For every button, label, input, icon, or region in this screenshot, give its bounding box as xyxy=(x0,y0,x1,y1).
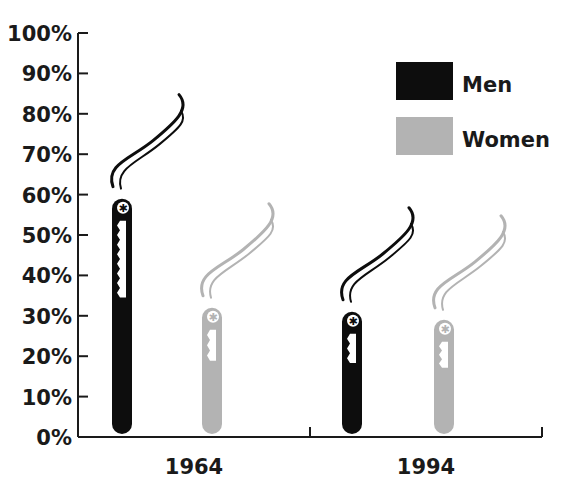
legend-swatch-women xyxy=(396,117,453,155)
cigarette-paper-icon xyxy=(207,330,216,361)
y-tick-label: 40% xyxy=(22,264,72,288)
legend-label-men: Men xyxy=(462,73,512,97)
y-tick-label: 50% xyxy=(22,224,72,248)
y-tick-label: 60% xyxy=(22,184,72,208)
x-category-label: 1964 xyxy=(165,455,223,479)
cigarette-smoking-chart: 0%10%20%30%40%50%60%70%80%90%100% 196419… xyxy=(0,0,561,493)
ember-icon: ✱ xyxy=(348,315,357,328)
cigarette-bar-women-1994: ✱ xyxy=(434,216,506,434)
smoke-icon xyxy=(112,95,184,189)
smoke-icon xyxy=(434,216,506,310)
y-tick-label: 20% xyxy=(22,345,72,369)
y-axis: 0%10%20%30%40%50%60%70%80%90%100% xyxy=(7,22,88,450)
y-tick-label: 80% xyxy=(22,103,72,127)
x-category-label: 1994 xyxy=(397,455,455,479)
x-axis: 19641994 xyxy=(78,427,542,479)
cigarette-paper-icon xyxy=(439,342,448,368)
ember-icon: ✱ xyxy=(440,323,449,336)
cigarette-bar-men-1964: ✱ xyxy=(112,95,184,434)
chart-container: 0%10%20%30%40%50%60%70%80%90%100% 196419… xyxy=(0,0,561,493)
cigarette-paper-icon xyxy=(347,334,356,363)
legend-label-women: Women xyxy=(462,128,550,152)
cigarette-bar-women-1964: ✱ xyxy=(202,204,274,434)
y-tick-label: 30% xyxy=(22,305,72,329)
smoke-icon xyxy=(342,208,414,302)
legend: Men Women xyxy=(396,62,550,155)
ember-icon: ✱ xyxy=(208,311,217,324)
y-tick-label: 100% xyxy=(7,22,72,46)
y-tick-label: 10% xyxy=(22,386,72,410)
y-tick-label: 90% xyxy=(22,62,72,86)
cigarette-bar-men-1994: ✱ xyxy=(342,208,414,434)
y-tick-label: 70% xyxy=(22,143,72,167)
ember-icon: ✱ xyxy=(118,202,127,215)
smoke-icon xyxy=(202,204,274,298)
legend-swatch-men xyxy=(396,62,453,100)
y-tick-label: 0% xyxy=(36,426,72,450)
